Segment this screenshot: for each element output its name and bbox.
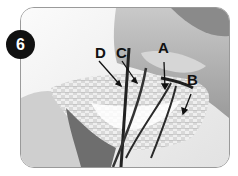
label-d: D bbox=[95, 45, 106, 60]
step-badge: 6 bbox=[6, 30, 35, 59]
label-a: A bbox=[158, 40, 169, 55]
label-b: B bbox=[187, 72, 198, 87]
label-c: C bbox=[116, 45, 127, 60]
photo-frame: D C A B bbox=[20, 7, 230, 168]
